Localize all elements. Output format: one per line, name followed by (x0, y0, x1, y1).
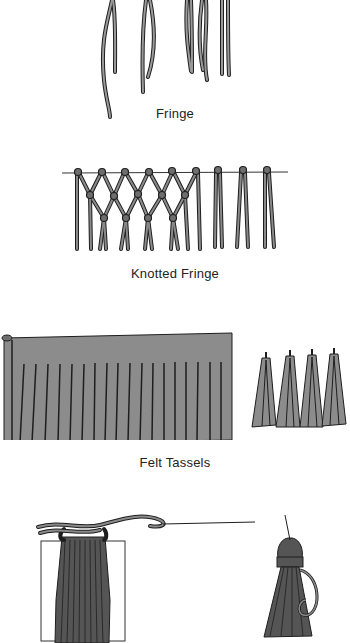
knotted-fringe-caption: Knotted Fringe (115, 266, 235, 281)
felt-tassels-illustration (0, 330, 350, 440)
fringe-caption: Fringe (145, 106, 205, 121)
felt-tassels-caption: Felt Tassels (125, 455, 225, 470)
knotted-fringe-illustration (0, 160, 350, 270)
yarn-tassel-illustration (0, 480, 350, 643)
fringe-illustration (0, 0, 350, 120)
